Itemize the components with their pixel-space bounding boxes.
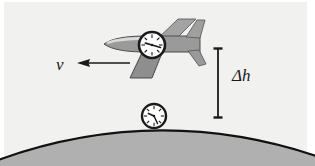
height-difference-label: Δh [232,66,250,86]
airplane-clock [139,32,165,58]
airplane-clock-center-pin [151,44,153,46]
ground-clock-center-pin [153,115,155,117]
ground-clock [142,104,166,128]
figure-container: v Δh [0,0,315,166]
diagram-canvas [0,0,315,166]
velocity-label: v [56,55,64,75]
